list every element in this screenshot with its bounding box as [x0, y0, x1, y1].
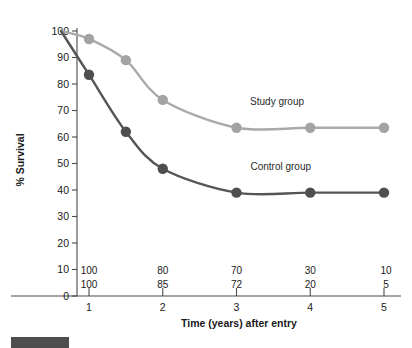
x-tick-label: 4: [307, 301, 313, 313]
risk-count-cell: 10: [380, 265, 392, 276]
series-markers-group: [84, 34, 389, 198]
series-annotation-control-group: Control group: [250, 161, 311, 172]
risk-count-cell: 70: [231, 265, 243, 276]
x-tick-label: 2: [160, 301, 166, 313]
data-point-marker: [379, 123, 389, 133]
numbers-at-risk-table: 100807030101008572205: [81, 265, 392, 290]
data-point-marker: [121, 127, 131, 137]
y-tick-label: 10: [57, 263, 69, 275]
risk-count-cell: 5: [383, 279, 389, 290]
series-line-control-group: [61, 31, 384, 194]
data-point-marker: [231, 187, 241, 197]
risk-count-cell: 85: [157, 279, 169, 290]
y-tick-label: 20: [57, 237, 69, 249]
figure-caption-bar: [11, 337, 69, 348]
data-point-marker: [379, 187, 389, 197]
risk-count-cell: 30: [305, 265, 317, 276]
y-tick-label: 60: [57, 131, 69, 143]
y-axis-tick-labels: 0102030405060708090100: [51, 25, 69, 302]
x-axis-tick-labels: 12345: [86, 301, 387, 313]
data-point-marker: [158, 164, 168, 174]
y-tick-label: 40: [57, 184, 69, 196]
data-point-marker: [84, 34, 94, 44]
y-tick-label: 90: [57, 51, 69, 63]
risk-count-cell: 20: [305, 279, 317, 290]
series-lines-group: [61, 31, 384, 194]
data-point-marker: [305, 123, 315, 133]
risk-count-cell: 100: [81, 279, 98, 290]
y-axis-ticks: [72, 31, 77, 296]
y-tick-label: 50: [57, 157, 69, 169]
data-point-marker: [158, 95, 168, 105]
data-point-marker: [84, 70, 94, 80]
series-annotation-study-group: Study group: [250, 96, 304, 107]
y-axis-title: % Survival: [14, 133, 26, 186]
y-tick-label: 0: [63, 290, 69, 302]
x-tick-label: 3: [234, 301, 240, 313]
x-tick-label: 1: [86, 301, 92, 313]
series-annotation-labels: Study groupControl group: [250, 96, 311, 172]
x-tick-label: 5: [381, 301, 387, 313]
y-tick-label: 80: [57, 78, 69, 90]
x-axis-title: Time (years) after entry: [181, 317, 297, 329]
risk-count-cell: 72: [231, 279, 243, 290]
risk-count-cell: 100: [81, 265, 98, 276]
y-tick-label: 70: [57, 104, 69, 116]
risk-count-cell: 80: [157, 265, 169, 276]
data-point-marker: [305, 187, 315, 197]
data-point-marker: [121, 55, 131, 65]
series-line-study-group: [61, 31, 384, 130]
data-point-marker: [231, 123, 241, 133]
y-tick-label: 30: [57, 210, 69, 222]
